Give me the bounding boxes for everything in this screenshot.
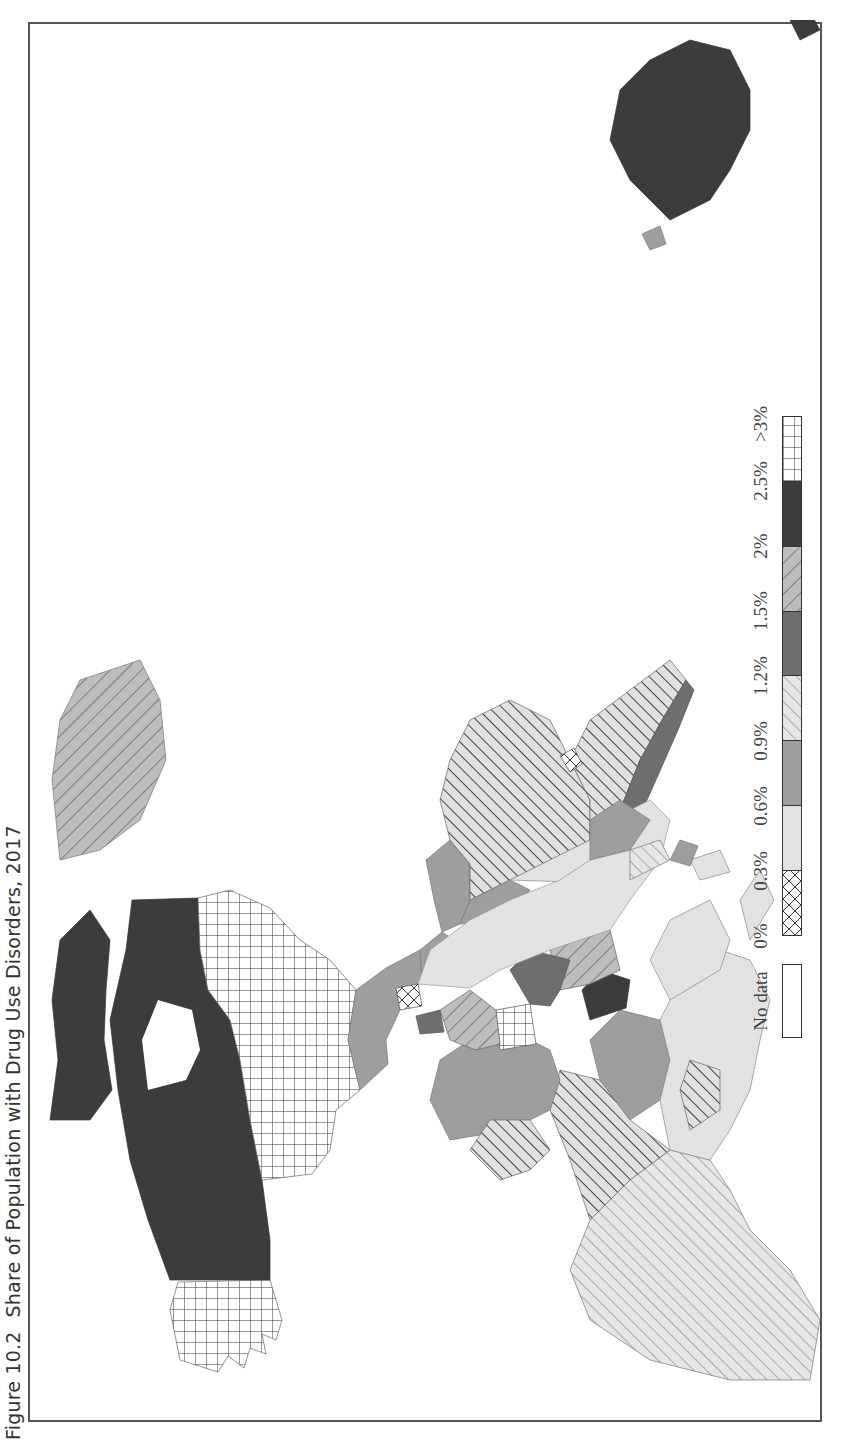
legend-tick-8: >3%: [750, 406, 772, 442]
legend-tick-0: 0%: [750, 923, 772, 948]
world-map: [30, 20, 824, 1420]
legend-swatch-4: [783, 611, 801, 676]
figure-canvas: Figure 10.2Share of Population with Drug…: [0, 0, 848, 1444]
legend-swatch-2: [783, 740, 801, 805]
legend-swatch-6: [783, 481, 801, 546]
region-morocco: [416, 1010, 444, 1034]
legend-tick-2: 0.6%: [750, 786, 772, 826]
legend: No data 0% 0.3% 0.6% 0.9% 1.2% 1.5% 2% 2…: [742, 418, 822, 1038]
region-west-sahara-nodata: [396, 984, 422, 1010]
legend-swatch-3: [783, 676, 801, 741]
legend-no-data-label: No data: [750, 964, 772, 1038]
legend-swatch-0: [783, 870, 801, 935]
legend-swatch-7: [783, 417, 801, 481]
region-oceania: [610, 20, 820, 250]
legend-tick-5: 1.5%: [750, 591, 772, 631]
region-papua: [642, 226, 666, 250]
region-libya: [496, 1004, 536, 1050]
region-alaska: [170, 1280, 282, 1372]
legend-tick-7: 2.5%: [750, 461, 772, 501]
legend-color-bar: [782, 416, 802, 936]
legend-no-data-swatch: [782, 964, 802, 1038]
map-frame: [28, 22, 822, 1422]
legend-swatch-5: [783, 546, 801, 611]
legend-swatch-1: [783, 805, 801, 870]
legend-tick-3: 0.9%: [750, 721, 772, 761]
region-australia: [610, 40, 750, 220]
figure-title-text: Share of Population with Drug Use Disord…: [2, 825, 24, 1317]
region-canada-arctic: [50, 910, 112, 1120]
region-algeria: [440, 990, 500, 1050]
region-madagascar: [690, 850, 730, 880]
legend-tick-6: 2%: [750, 533, 772, 558]
figure-title: Figure 10.2Share of Population with Drug…: [2, 825, 24, 1440]
region-mexico: [348, 950, 422, 1090]
legend-tick-4: 1.2%: [750, 656, 772, 696]
region-new-zealand: [790, 20, 820, 40]
legend-tick-1: 0.3%: [750, 851, 772, 891]
region-north-america: [50, 660, 454, 1372]
region-greenland: [52, 660, 166, 860]
figure-number: Figure 10.2: [2, 1331, 24, 1440]
